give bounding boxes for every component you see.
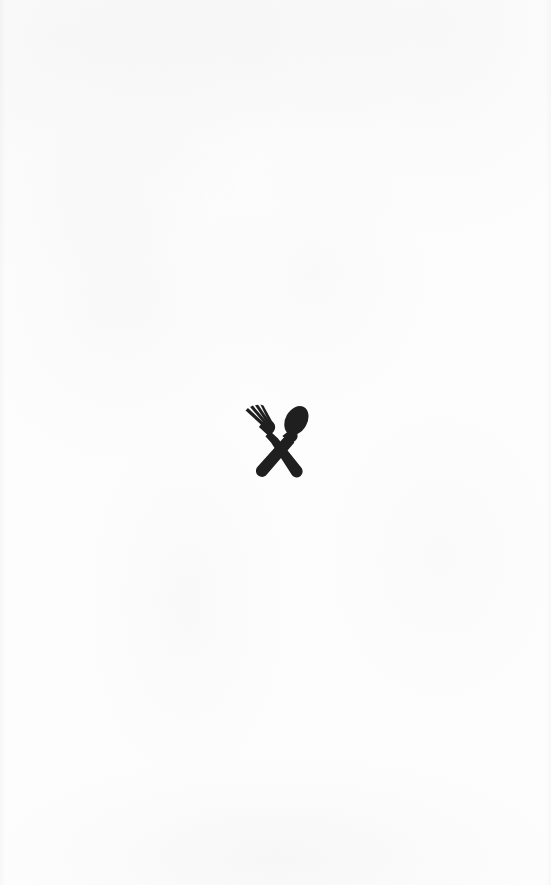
emblem-label: Crossed fork and spoon xyxy=(244,480,245,481)
scanned-page: Crossed fork and spoon xyxy=(0,0,551,885)
page-content-area: Crossed fork and spoon xyxy=(0,0,551,885)
crossed-fork-and-spoon-icon: Crossed fork and spoon xyxy=(244,404,314,480)
